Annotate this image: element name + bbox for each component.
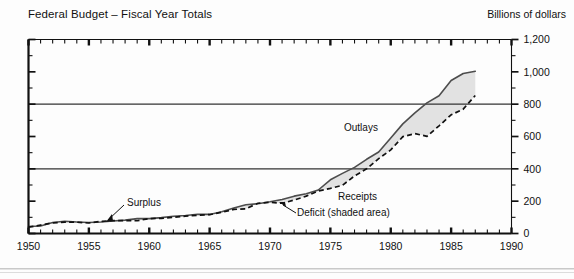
y-tick-label: 200 <box>524 195 542 207</box>
footer-rule-secondary <box>0 272 574 273</box>
annotation-surplus: Surplus <box>127 197 161 208</box>
x-tick-label: 1975 <box>319 240 343 252</box>
x-tick-label: 1985 <box>439 240 463 252</box>
footer-rule <box>0 268 574 270</box>
x-tick-label: 1990 <box>500 240 524 252</box>
x-tick-label: 1950 <box>17 240 41 252</box>
x-tick-label: 1970 <box>258 240 282 252</box>
x-tick-label: 1980 <box>379 240 403 252</box>
y-tick-label: 1,200 <box>524 33 550 45</box>
x-tick-label: 1960 <box>138 240 162 252</box>
y-tick-label: 1,000 <box>524 66 550 78</box>
chart-svg: 1950195519601965197019751980198519900200… <box>0 0 574 279</box>
x-tick-label: 1965 <box>198 240 222 252</box>
y-tick-label: 0 <box>524 227 530 239</box>
x-tick-label: 1955 <box>77 240 101 252</box>
outlays-line <box>29 71 476 226</box>
y-tick-label: 800 <box>524 98 542 110</box>
annotation-outlays: Outlays <box>344 122 378 133</box>
chart-figure: Federal Budget – Fiscal Year Totals Bill… <box>0 0 574 279</box>
annotation-receipts: Receipts <box>338 191 377 202</box>
receipts-line <box>29 95 476 227</box>
annotation-deficit: Deficit (shaded area) <box>297 207 390 218</box>
surplus-leader-arrow <box>106 214 113 222</box>
y-tick-label: 600 <box>524 130 542 142</box>
y-tick-label: 400 <box>524 163 542 175</box>
